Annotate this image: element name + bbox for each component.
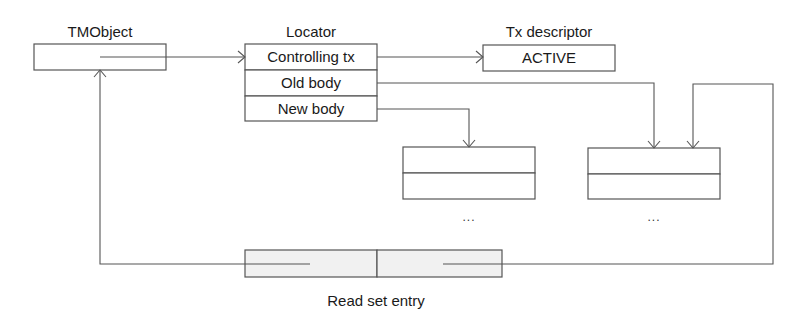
object-field [588,174,720,199]
locator: Locator Controlling tx Old body New body [245,23,377,121]
edge-controlling-tx-to-descriptor [377,51,483,63]
continuation-ellipsis: ... [647,210,660,224]
tx-status: ACTIVE [522,49,576,66]
edge-old-body-to-object [377,83,660,148]
tx-descriptor: Tx descriptor ACTIVE [483,23,615,71]
locator-field-label: New body [278,100,345,117]
object-field [403,147,535,173]
locator-field-label: Old body [281,74,342,91]
edge-new-body-to-object [377,109,475,147]
tmobject: TMObject [34,23,166,70]
object-field [403,173,535,199]
read-set-entry: Read set entry [245,250,502,309]
new-body-object: ... [403,147,535,224]
read-set-entry-title: Read set entry [327,292,425,309]
object-field [588,148,720,174]
tx-descriptor-title: Tx descriptor [506,23,593,40]
diagram-canvas: TMObject Locator Controlling tx Old body… [0,0,796,317]
old-body-object: ... [588,148,720,224]
locator-title: Locator [286,23,336,40]
locator-field-label: Controlling tx [267,48,355,65]
tmobject-title: TMObject [67,23,133,40]
continuation-ellipsis: ... [462,210,475,224]
